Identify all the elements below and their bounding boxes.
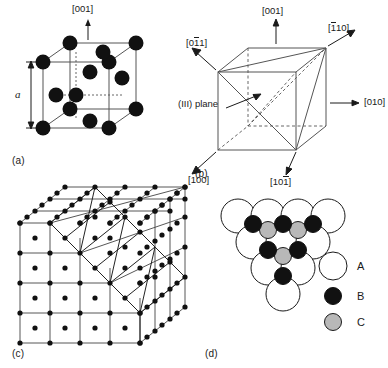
panel-d-svg	[205, 183, 388, 368]
direction-arrow-001	[85, 19, 91, 40]
direction-label-001-a: [001]	[72, 4, 93, 14]
panel-label-d: (d)	[205, 348, 218, 359]
right-face-grid	[50, 187, 185, 343]
plane-label-leader-line	[226, 94, 261, 108]
panel-label-b: (b)	[195, 168, 208, 179]
legend-label-a: A	[357, 260, 364, 272]
panel-label-c: (c)	[12, 348, 24, 359]
panel-b-direction-cube: [001] [110] [011] [010] [100] [101] (III…	[178, 0, 388, 185]
lattice-parameter-dimension	[26, 61, 36, 129]
direction-arrows	[192, 19, 359, 175]
legend-symbol-c	[325, 314, 342, 331]
direction-label-0bar11: [011]	[186, 36, 207, 48]
unit-cell-atoms	[36, 36, 144, 136]
panel-label-a: (a)	[12, 155, 25, 166]
legend-label-b: B	[357, 290, 364, 302]
panel-d-abc-stacking: A B C (d)	[205, 183, 388, 368]
legend-symbol-a	[319, 252, 347, 280]
plane-111-construction-lines	[218, 48, 326, 150]
stepped-111-facets	[50, 187, 185, 343]
plane-111-triangle	[218, 48, 326, 150]
cube-wireframe-solid	[218, 48, 326, 150]
lattice-parameter-label: a	[15, 88, 21, 100]
atom-dots-right	[137, 184, 187, 345]
plane-label-111: (III) plane	[178, 99, 218, 109]
cube-wireframe-hidden	[218, 48, 326, 150]
legend-symbols	[319, 252, 347, 331]
legend-label-c: C	[357, 316, 365, 328]
panel-a-svg	[0, 0, 190, 175]
panel-a-fcc-unit-cell: [001] a (a)	[0, 0, 190, 175]
direction-label-010: [010]	[364, 97, 385, 107]
legend-symbol-b	[325, 288, 342, 305]
panel-c-svg	[0, 183, 205, 368]
direction-label-1bar10: [110]	[328, 21, 349, 33]
panel-c-stepped-surface: (c)	[0, 183, 205, 368]
direction-label-001-b: [001]	[262, 6, 283, 16]
panel-b-svg	[178, 0, 388, 185]
crystallography-figure: [001] a (a)	[0, 0, 388, 368]
